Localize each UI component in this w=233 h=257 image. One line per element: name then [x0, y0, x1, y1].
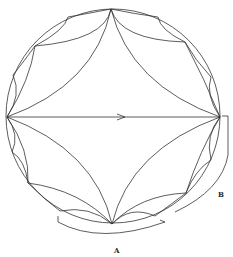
label-a: A — [113, 246, 120, 255]
scallop — [186, 160, 211, 193]
arc-tr-3 — [185, 42, 220, 117]
arc-bl-3 — [28, 183, 112, 224]
arc-br-3 — [112, 193, 186, 224]
label-b: B — [218, 190, 224, 199]
scallop — [68, 9, 111, 17]
hyperbolic-disk-diagram: B A — [0, 0, 233, 257]
scallop — [28, 183, 60, 211]
arc-bottom-left — [7, 117, 112, 224]
arc-bl-2 — [7, 117, 28, 183]
scallop — [112, 212, 155, 224]
arc-tl-2 — [35, 9, 111, 46]
bracket-a — [58, 216, 165, 234]
arc-top-right — [111, 9, 220, 117]
scallop — [7, 117, 15, 152]
boundary-circle — [6, 9, 220, 223]
arc-tl-3 — [7, 46, 35, 117]
scallop — [209, 117, 220, 160]
scallop — [111, 9, 158, 17]
scallop — [185, 42, 211, 77]
arc-tr-2 — [111, 9, 185, 42]
